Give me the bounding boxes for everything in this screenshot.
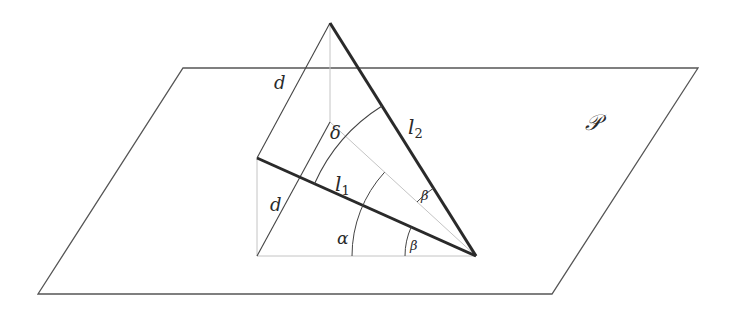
line-l2 <box>330 23 476 256</box>
distance-d-upper <box>257 23 330 158</box>
label-l1: l1 <box>335 172 350 198</box>
label-beta-lower: β <box>409 238 418 253</box>
label-d-upper: d <box>274 72 286 93</box>
geometry-diagram: d d δ l1 l2 α β β 𝒫 <box>0 0 739 314</box>
label-d-lower: d <box>270 194 282 215</box>
label-l2: l2 <box>408 115 423 141</box>
line-l1 <box>257 158 476 256</box>
plane-p <box>38 68 698 294</box>
label-plane: 𝒫 <box>585 110 607 135</box>
label-beta-upper: β <box>420 188 429 203</box>
label-alpha: α <box>337 228 349 248</box>
distance-d-lower <box>257 122 330 256</box>
label-delta: δ <box>330 122 341 143</box>
delta-arc <box>315 106 383 184</box>
